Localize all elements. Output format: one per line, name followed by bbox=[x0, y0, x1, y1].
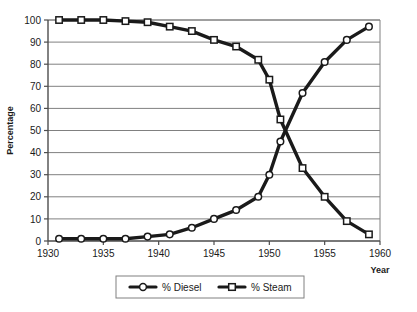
data-point-diesel[interactable] bbox=[189, 224, 196, 231]
data-point-diesel[interactable] bbox=[78, 235, 85, 242]
data-point-diesel[interactable] bbox=[56, 235, 63, 242]
y-tick-label: 100 bbox=[24, 15, 41, 26]
x-tick-label: 1935 bbox=[92, 248, 115, 259]
y-tick-label: 90 bbox=[30, 37, 42, 48]
series-line-diesel bbox=[59, 27, 369, 239]
data-point-steam[interactable] bbox=[167, 23, 173, 29]
x-tick-label: 1960 bbox=[369, 248, 392, 259]
data-point-steam[interactable] bbox=[78, 17, 84, 23]
legend-item-steam[interactable]: % Steam bbox=[219, 282, 292, 293]
gridlines bbox=[48, 20, 380, 219]
legend-label: % Diesel bbox=[162, 282, 201, 293]
y-tick-label: 20 bbox=[30, 191, 42, 202]
data-point-diesel[interactable] bbox=[100, 235, 107, 242]
legend-marker-square-icon bbox=[229, 284, 236, 291]
data-point-steam[interactable] bbox=[321, 194, 327, 200]
y-axis-ticks: 0102030405060708090100 bbox=[24, 15, 48, 247]
x-axis-title: Year bbox=[370, 265, 390, 275]
line-chart: 0102030405060708090100193019351940194519… bbox=[0, 0, 417, 312]
data-point-diesel[interactable] bbox=[321, 59, 328, 66]
data-point-diesel[interactable] bbox=[211, 216, 218, 223]
data-point-diesel[interactable] bbox=[277, 138, 284, 145]
data-point-steam[interactable] bbox=[344, 218, 350, 224]
y-tick-label: 80 bbox=[30, 59, 42, 70]
x-tick-label: 1945 bbox=[203, 248, 226, 259]
legend-label: % Steam bbox=[251, 282, 292, 293]
y-tick-label: 50 bbox=[30, 125, 42, 136]
data-point-diesel[interactable] bbox=[366, 23, 373, 30]
data-point-steam[interactable] bbox=[189, 28, 195, 34]
data-point-steam[interactable] bbox=[122, 18, 128, 24]
x-axis-ticks: 1930193519401945195019551960 bbox=[37, 241, 392, 259]
y-tick-label: 0 bbox=[35, 236, 41, 247]
y-tick-label: 30 bbox=[30, 169, 42, 180]
series-steam bbox=[56, 17, 372, 238]
x-tick-label: 1955 bbox=[314, 248, 337, 259]
data-point-diesel[interactable] bbox=[233, 207, 240, 214]
data-point-steam[interactable] bbox=[299, 165, 305, 171]
y-tick-label: 70 bbox=[30, 81, 42, 92]
data-point-diesel[interactable] bbox=[166, 231, 173, 238]
series-diesel bbox=[56, 23, 372, 242]
x-tick-label: 1930 bbox=[37, 248, 60, 259]
data-point-steam[interactable] bbox=[211, 37, 217, 43]
y-tick-label: 60 bbox=[30, 103, 42, 114]
data-point-diesel[interactable] bbox=[344, 37, 351, 44]
data-point-steam[interactable] bbox=[144, 19, 150, 25]
data-point-steam[interactable] bbox=[277, 116, 283, 122]
data-point-steam[interactable] bbox=[233, 43, 239, 49]
y-tick-label: 10 bbox=[30, 214, 42, 225]
y-tick-label: 40 bbox=[30, 147, 42, 158]
legend-marker-circle-icon bbox=[140, 284, 147, 291]
data-point-steam[interactable] bbox=[366, 231, 372, 237]
x-tick-label: 1950 bbox=[258, 248, 281, 259]
data-point-steam[interactable] bbox=[56, 17, 62, 23]
data-point-diesel[interactable] bbox=[122, 235, 129, 242]
legend: % Diesel% Steam bbox=[116, 276, 304, 298]
series-line-steam bbox=[59, 20, 369, 234]
x-tick-label: 1940 bbox=[148, 248, 171, 259]
data-point-steam[interactable] bbox=[100, 17, 106, 23]
data-point-steam[interactable] bbox=[255, 57, 261, 63]
data-point-diesel[interactable] bbox=[144, 233, 151, 240]
data-point-diesel[interactable] bbox=[266, 171, 273, 178]
y-axis-title: Percentage bbox=[5, 106, 15, 155]
data-point-diesel[interactable] bbox=[299, 90, 306, 97]
data-point-steam[interactable] bbox=[266, 76, 272, 82]
data-point-diesel[interactable] bbox=[255, 194, 262, 201]
chart-container: 0102030405060708090100193019351940194519… bbox=[0, 0, 417, 312]
